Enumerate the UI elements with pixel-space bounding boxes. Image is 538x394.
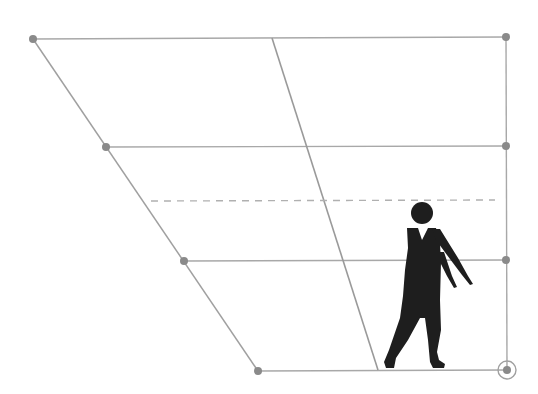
point-right-1 [502,33,510,41]
point-right-3 [502,256,510,264]
diagram-canvas [0,0,538,394]
point-right-4 [503,366,511,374]
point-left-3 [180,257,188,265]
human-figure-icon [384,202,473,368]
left-edge-line [33,39,258,371]
horizontal-line-4 [258,370,507,371]
horizontal-line-1 [33,37,506,39]
point-left-4 [254,367,262,375]
point-left-1 [29,35,37,43]
point-right-2 [502,142,510,150]
dashed-horizon-line [151,200,495,201]
perspective-diagram [0,0,538,394]
figure-head [411,202,433,224]
right-edge-line [506,37,507,370]
point-left-2 [102,143,110,151]
figure-body [384,228,445,368]
middle-slanted-line [272,38,378,370]
